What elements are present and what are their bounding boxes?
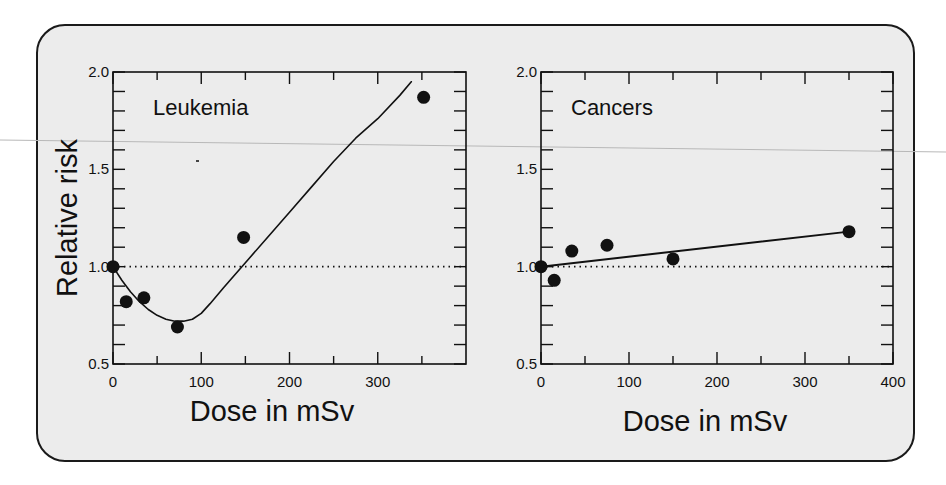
figure-svg: Relative risk 01002003000.51.01.52.0 Leu… (0, 0, 946, 485)
x-tick-label: 300 (365, 373, 390, 390)
data-point (171, 321, 184, 334)
x-tick-label: 300 (792, 373, 817, 390)
x-axis-title-cancers: Dose in mSv (623, 405, 788, 437)
panel-title-leukemia: Leukemia (153, 95, 249, 120)
x-tick-label: 100 (616, 373, 641, 390)
scan-speck (196, 160, 199, 162)
x-axis-title-leukemia: Dose in mSv (190, 395, 355, 427)
data-point (417, 91, 430, 104)
figure-container: Relative risk 01002003000.51.01.52.0 Leu… (0, 0, 946, 485)
y-tick-label: 2.0 (516, 63, 537, 80)
y-axis-title: Relative risk (51, 139, 83, 297)
data-point (601, 239, 614, 252)
y-tick-label: 1.5 (516, 160, 537, 177)
data-point (237, 231, 250, 244)
x-tick-label: 200 (277, 373, 302, 390)
data-point (120, 295, 133, 308)
x-tick-label: 0 (537, 373, 545, 390)
data-point (667, 252, 680, 265)
y-tick-label: 1.0 (88, 258, 109, 275)
y-tick-label: 0.5 (516, 355, 537, 372)
x-tick-label: 100 (189, 373, 214, 390)
y-tick-label: 1.5 (88, 160, 109, 177)
x-tick-label: 200 (704, 373, 729, 390)
y-tick-label: 2.0 (88, 63, 109, 80)
data-point (548, 274, 561, 287)
x-tick-label: 0 (109, 373, 117, 390)
figure-frame (37, 25, 914, 461)
panel-title-cancers: Cancers (571, 95, 653, 120)
x-tick-label: 400 (880, 373, 905, 390)
y-tick-label: 0.5 (88, 355, 109, 372)
data-point (565, 245, 578, 258)
y-tick-label: 1.0 (516, 258, 537, 275)
